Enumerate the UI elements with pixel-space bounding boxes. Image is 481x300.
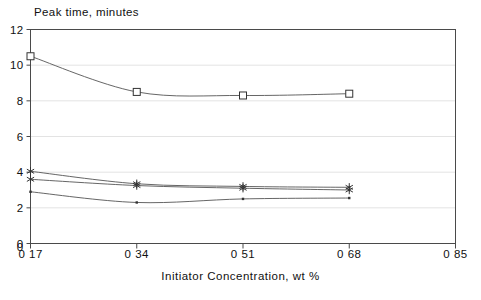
data-point-marker: [240, 92, 247, 99]
data-point-marker: [29, 191, 31, 193]
series-series-2: [27, 167, 353, 191]
y-tick-label: 6: [0, 131, 24, 143]
data-point-marker: [136, 201, 138, 203]
series-series-3: [27, 175, 353, 194]
x-tick-label: 0 51: [231, 248, 255, 260]
data-point-marker: [348, 197, 350, 199]
data-point-marker: [27, 53, 34, 60]
y-tick-marks: [27, 30, 31, 244]
series-series-4: [29, 191, 350, 204]
x-axis-title: Initiator Concentration, wt %: [0, 270, 481, 282]
data-series-layer: [27, 53, 353, 204]
series-line: [31, 192, 350, 203]
x-tick-label: 0 17: [19, 248, 43, 260]
x-tick-label: 0 34: [125, 248, 149, 260]
chart-figure: Peak time, minutes 0246810120 0 170 340 …: [0, 0, 481, 300]
series-line: [31, 179, 350, 190]
data-point-marker: [346, 90, 353, 97]
x-tick-label: 0 85: [443, 248, 467, 260]
series-series-1: [27, 53, 353, 99]
y-tick-label: 8: [0, 95, 24, 107]
y-tick-label: 2: [0, 202, 24, 214]
data-point-marker: [242, 198, 244, 200]
data-point-marker: [133, 88, 140, 95]
y-tick-label: 4: [0, 166, 24, 178]
y-tick-label: 10: [0, 59, 24, 71]
x-tick-label: 0 68: [337, 248, 361, 260]
series-line: [31, 171, 350, 187]
y-tick-label: 12: [0, 24, 24, 36]
series-line: [31, 56, 350, 96]
